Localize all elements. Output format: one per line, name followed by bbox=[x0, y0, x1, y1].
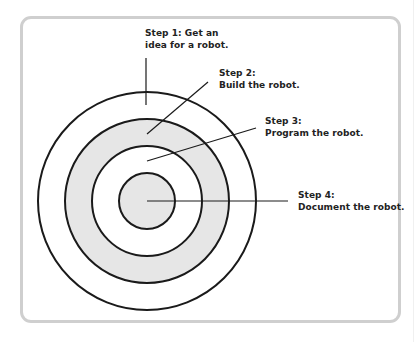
concentric-circles-diagram bbox=[0, 0, 415, 342]
step-4-desc: Document the robot. bbox=[298, 201, 405, 213]
step-3-desc: Program the robot. bbox=[265, 127, 364, 139]
step-1-label: Step 1: Get an idea for a robot. bbox=[145, 27, 229, 51]
step-3-title: Step 3: bbox=[265, 115, 364, 127]
step-4-title: Step 4: bbox=[298, 189, 405, 201]
step-3-label: Step 3: Program the robot. bbox=[265, 115, 364, 139]
step-2-title: Step 2: bbox=[219, 67, 300, 79]
step-4-label: Step 4: Document the robot. bbox=[298, 189, 405, 213]
step-2-desc: Build the robot. bbox=[219, 79, 300, 91]
step-1-desc: idea for a robot. bbox=[145, 39, 229, 51]
step-2-label: Step 2: Build the robot. bbox=[219, 67, 300, 91]
step-1-title: Step 1: Get an bbox=[145, 27, 229, 39]
